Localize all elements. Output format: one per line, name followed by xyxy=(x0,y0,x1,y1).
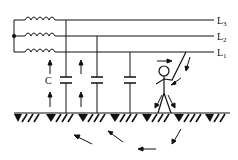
line-labels: L3 L2 L1 xyxy=(217,15,227,60)
label-l2: L2 xyxy=(217,31,227,44)
ground-current-arrows xyxy=(74,129,181,151)
coil-l1 xyxy=(25,49,55,52)
arrow-up-3 xyxy=(48,60,52,74)
label-l1: L1 xyxy=(217,47,227,60)
capacitance-label: C xyxy=(45,75,52,86)
star-point-dot xyxy=(12,34,16,38)
coil-l2 xyxy=(25,33,55,36)
arrow-up-1 xyxy=(48,92,52,107)
arrow-down-arm xyxy=(187,57,190,67)
arrow-up-4 xyxy=(79,60,83,74)
coil-l3 xyxy=(25,17,55,20)
arrow-up-2 xyxy=(79,92,83,107)
label-l3: L3 xyxy=(217,15,227,28)
circuit-diagram: C L3 L2 L1 xyxy=(0,0,238,160)
